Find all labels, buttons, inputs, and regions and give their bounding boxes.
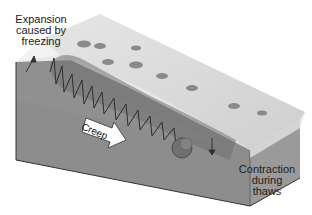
boulder bbox=[172, 138, 192, 158]
expansion-label-line-3: freezing bbox=[6, 36, 76, 47]
soil-creep-diagram: Expansion caused by freezing Creep Contr… bbox=[0, 0, 312, 215]
contraction-label-line-3: thaws bbox=[232, 186, 302, 197]
contraction-label: Contraction during thaws bbox=[232, 164, 302, 197]
expansion-label: Expansion caused by freezing bbox=[6, 14, 76, 47]
